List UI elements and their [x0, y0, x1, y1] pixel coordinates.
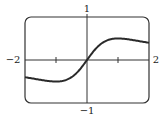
x-min-label: −2 [6, 54, 21, 65]
y-max-label: 1 [84, 3, 90, 14]
x-max-label: 2 [153, 54, 159, 65]
y-min-label: −1 [80, 105, 95, 116]
chart: 1 −1 −2 2 [0, 0, 165, 120]
